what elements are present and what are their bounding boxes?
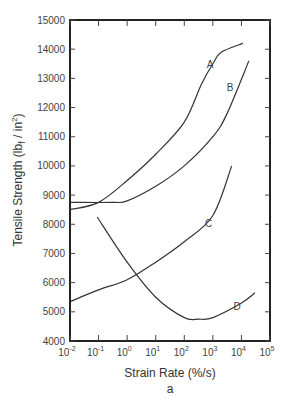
- curve-c: [70, 166, 232, 302]
- x-tick-label: 105: [259, 345, 274, 358]
- plot-frame: [70, 20, 270, 341]
- y-tick-label: 8000: [43, 219, 66, 230]
- curve-a: [70, 43, 243, 209]
- y-tick-label: 5000: [43, 306, 66, 317]
- y-tick-label: 6000: [43, 277, 66, 288]
- y-axis-title: Tensile Strength (lbf / in2): [10, 113, 27, 246]
- curve-label-b: B: [227, 82, 234, 93]
- y-tick-label: 12000: [37, 102, 65, 113]
- y-axis: 4000500060007000800090001000011000120001…: [37, 15, 270, 347]
- plot-border: [70, 20, 270, 341]
- x-tick-label: 101: [145, 345, 160, 358]
- curve-label-c: C: [205, 218, 212, 229]
- x-tick-label: 10-2: [58, 345, 75, 358]
- x-tick-label: 10-1: [87, 345, 104, 358]
- x-tick-label: 102: [174, 345, 189, 358]
- y-tick-label: 11000: [38, 131, 66, 142]
- x-tick-label: 104: [231, 345, 246, 358]
- curve-b: [70, 61, 249, 203]
- x-tick-label: 100: [117, 345, 132, 358]
- y-tick-label: 14000: [37, 44, 65, 55]
- y-tick-label: 4000: [43, 336, 66, 347]
- y-tick-label: 13000: [37, 73, 65, 84]
- curve-d: [97, 217, 255, 320]
- tensile-strength-chart: 4000500060007000800090001000011000120001…: [0, 0, 289, 403]
- y-tick-label: 9000: [43, 190, 66, 201]
- x-axis-title: Strain Rate (%/s): [124, 366, 215, 380]
- curve-label-d: D: [234, 301, 241, 312]
- x-tick-label: 103: [202, 345, 217, 358]
- y-tick-label: 15000: [37, 15, 65, 26]
- x-axis: 10-210-1100101102103104105: [58, 20, 274, 358]
- chart-subtitle: a: [167, 382, 174, 396]
- curve-labels: ABCD: [205, 59, 241, 312]
- curve-label-a: A: [207, 59, 214, 70]
- y-tick-label: 7000: [43, 248, 66, 259]
- y-tick-label: 10000: [37, 160, 65, 171]
